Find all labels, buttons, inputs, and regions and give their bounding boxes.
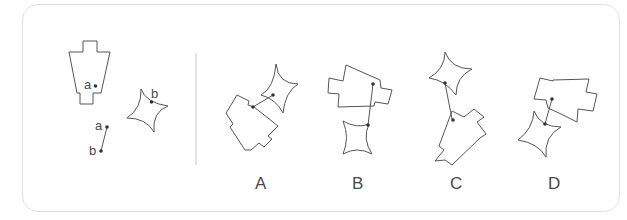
segment-b-dot (99, 149, 103, 153)
puzzle-figure: a b a b A B C (0, 0, 627, 220)
option-b-figure[interactable] (328, 65, 392, 154)
segment-a-dot (105, 125, 109, 129)
question-panel: a b a b (69, 41, 168, 158)
option-b-label[interactable]: B (352, 174, 363, 193)
option-c-label[interactable]: C (450, 174, 462, 193)
notched-shape (69, 41, 110, 104)
point-a-dot (94, 84, 98, 88)
option-a-label[interactable]: A (255, 174, 267, 193)
segment-a-label: a (95, 118, 103, 133)
segment-b-label: b (89, 143, 96, 158)
point-b-label: b (151, 86, 158, 101)
concave-star-shape (127, 89, 168, 132)
option-a-figure[interactable] (226, 64, 298, 150)
option-d-label[interactable]: D (548, 174, 560, 193)
point-a-label: a (84, 77, 92, 92)
option-d-figure[interactable] (518, 78, 597, 157)
option-c-figure[interactable] (429, 52, 486, 165)
